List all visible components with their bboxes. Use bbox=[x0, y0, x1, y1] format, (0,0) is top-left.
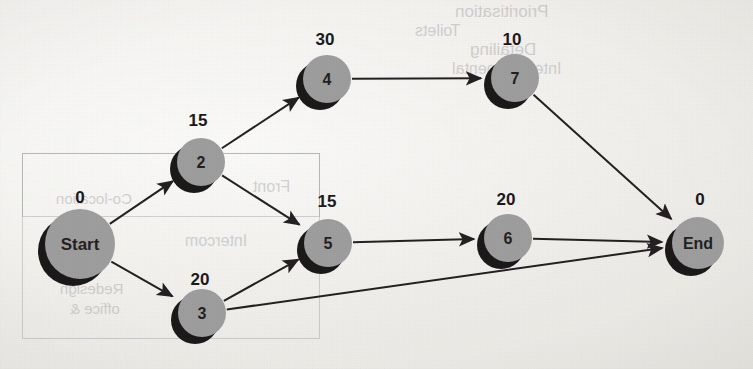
edge-start-to-n3 bbox=[111, 262, 172, 297]
node-end[interactable]: End bbox=[665, 217, 724, 276]
nodes-layer: Start234567End bbox=[38, 54, 724, 344]
node-duration-n5: 15 bbox=[318, 192, 337, 211]
node-label: 7 bbox=[511, 70, 520, 87]
edge-n2-to-n4 bbox=[222, 98, 299, 149]
edge-n3-to-end bbox=[227, 248, 663, 309]
edge-n7-to-end bbox=[534, 95, 672, 219]
edge-start-to-n2 bbox=[110, 181, 173, 224]
node-duration-n6: 20 bbox=[497, 190, 516, 209]
diagram-page: PrioritisationToiletsDetailingInterconti… bbox=[0, 0, 753, 369]
duration-labels-layer: 01520301520100 bbox=[75, 30, 704, 289]
node-label: 3 bbox=[198, 305, 207, 322]
node-label: 2 bbox=[197, 154, 206, 171]
node-duration-n4: 30 bbox=[316, 30, 335, 49]
node-n7[interactable]: 7 bbox=[484, 54, 539, 109]
edge-n4-to-n7 bbox=[352, 78, 481, 79]
node-duration-n2: 15 bbox=[189, 111, 208, 130]
node-duration-n3: 20 bbox=[191, 270, 210, 289]
node-start[interactable]: Start bbox=[38, 209, 115, 286]
edge-n3-to-n5 bbox=[224, 260, 298, 301]
node-n6[interactable]: 6 bbox=[477, 214, 532, 269]
node-n3[interactable]: 3 bbox=[171, 289, 226, 344]
node-duration-n7: 10 bbox=[503, 30, 522, 49]
node-n4[interactable]: 4 bbox=[296, 55, 351, 110]
edge-n5-to-n6 bbox=[353, 239, 474, 242]
node-label: Start bbox=[61, 235, 100, 254]
edge-n2-to-n5 bbox=[222, 175, 299, 224]
node-duration-end: 0 bbox=[695, 190, 704, 209]
node-n5[interactable]: 5 bbox=[297, 219, 352, 274]
node-label: 4 bbox=[323, 71, 332, 88]
node-n2[interactable]: 2 bbox=[170, 138, 225, 193]
edge-n6-to-end bbox=[533, 239, 662, 242]
node-label: End bbox=[683, 235, 713, 252]
activity-network-graph: Start234567End 01520301520100 bbox=[0, 0, 753, 369]
node-label: 5 bbox=[324, 235, 333, 252]
node-duration-start: 0 bbox=[75, 188, 84, 207]
node-label: 6 bbox=[504, 230, 513, 247]
